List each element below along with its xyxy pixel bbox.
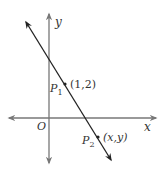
x-axis-label: x [144,120,151,134]
p2-subscript: 2 [89,140,94,149]
p1-coords: (1,2) [70,78,96,91]
p1-subscript: 1 [57,88,62,97]
p2-label: P2 [81,134,95,149]
y-axis-label: y [54,15,62,29]
coordinate-diagram: y x O P1 (1,2) P2 (x,y) [0,0,167,178]
p2-coords: (x,y) [103,131,128,144]
origin-label: O [37,120,46,133]
line-through-p1-p2 [26,22,111,160]
point-p2 [96,135,99,138]
point-p1 [63,82,66,85]
p1-label: P1 [49,82,63,97]
